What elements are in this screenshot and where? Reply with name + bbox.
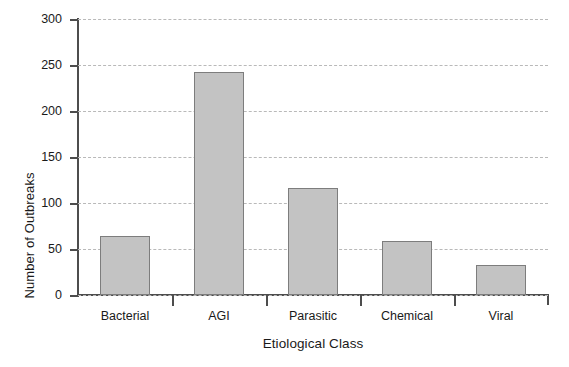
y-tick-label-50: 50 (22, 242, 62, 256)
gridline-0 (78, 295, 548, 296)
gridline-200 (78, 111, 548, 112)
y-tick-label-300: 300 (22, 12, 62, 26)
bar-chart-figure: Number of Outbreaks 050100150200250300 B… (0, 0, 569, 367)
bar-chemical (382, 241, 432, 295)
gridline-300 (78, 19, 548, 20)
y-tick-label-100: 100 (22, 196, 62, 210)
x-tick-label-bacterial: Bacterial (78, 309, 172, 323)
x-tick-label-agi: AGI (172, 309, 266, 323)
gridline-150 (78, 157, 548, 158)
x-tick-label-parasitic: Parasitic (266, 309, 360, 323)
bar-parasitic (288, 188, 338, 295)
x-tick-label-viral: Viral (454, 309, 548, 323)
x-tick-label-chemical: Chemical (360, 309, 454, 323)
x-tick-3 (360, 295, 362, 306)
x-tick-4 (454, 295, 456, 306)
bar-bacterial (100, 236, 150, 295)
y-tick-label-200: 200 (22, 104, 62, 118)
y-tick-label-150: 150 (22, 150, 62, 164)
x-tick-1 (172, 295, 174, 306)
y-tick-label-0: 0 (22, 288, 62, 302)
bar-viral (476, 265, 526, 295)
y-tick-label-250: 250 (22, 58, 62, 72)
bar-agi (194, 72, 244, 295)
x-tick-2 (266, 295, 268, 306)
y-axis-title-text: Number of Outbreaks (22, 172, 37, 298)
gridline-250 (78, 65, 548, 66)
x-axis-title: Etiological Class (78, 336, 548, 351)
y-axis-title: Number of Outbreaks (14, 0, 44, 367)
plot-area (78, 19, 548, 295)
